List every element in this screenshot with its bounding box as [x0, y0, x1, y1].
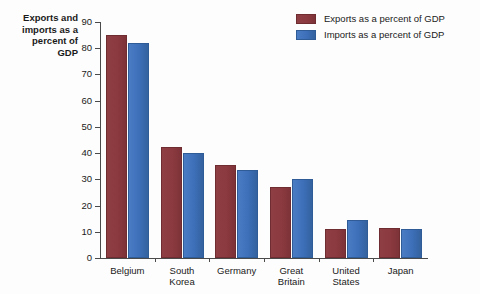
- bar-exports: [161, 147, 182, 258]
- bar-group: [100, 22, 155, 258]
- y-tick-label: 0: [52, 252, 92, 263]
- y-tick-label: 60: [52, 95, 92, 106]
- plot-area: 0102030405060708090 BelgiumSouthKoreaGer…: [100, 22, 428, 258]
- bar-group: [373, 22, 428, 258]
- x-axis-label-line: Japan: [362, 265, 440, 276]
- legend-label: Imports as a percent of GDP: [324, 29, 444, 40]
- bar-imports: [347, 220, 368, 258]
- x-axis-separator: [319, 258, 320, 262]
- chart-legend: Exports as a percent of GDPImports as a …: [296, 13, 476, 45]
- bar-imports: [237, 170, 258, 258]
- x-axis-separator: [373, 258, 374, 262]
- bar-exports: [215, 165, 236, 258]
- legend-swatch-imports: [296, 30, 316, 40]
- y-tick-mark: [95, 258, 100, 259]
- bar-group: [209, 22, 264, 258]
- x-axis-separator: [209, 258, 210, 262]
- bar-group: [264, 22, 319, 258]
- x-axis-label-line: Korea: [143, 276, 221, 287]
- x-axis-label: Japan: [362, 265, 440, 276]
- y-tick-label: 50: [52, 121, 92, 132]
- x-axis-separator: [264, 258, 265, 262]
- bar-exports: [106, 35, 127, 258]
- y-tick-label: 80: [52, 42, 92, 53]
- x-axis-label-line: States: [307, 276, 385, 287]
- bar-exports: [270, 187, 291, 258]
- bar-exports: [379, 228, 400, 258]
- bar-group: [319, 22, 374, 258]
- y-tick-label: 10: [52, 226, 92, 237]
- bar-imports: [128, 43, 149, 258]
- y-tick-label: 30: [52, 173, 92, 184]
- legend-label: Exports as a percent of GDP: [324, 13, 445, 24]
- bar-imports: [292, 179, 313, 258]
- legend-item: Imports as a percent of GDP: [296, 29, 476, 40]
- bar-imports: [183, 153, 204, 258]
- y-tick-label: 20: [52, 200, 92, 211]
- bar-exports: [325, 229, 346, 258]
- y-tick-label: 70: [52, 68, 92, 79]
- legend-swatch-exports: [296, 14, 316, 24]
- y-tick-label: 90: [52, 16, 92, 27]
- bar-group: [155, 22, 210, 258]
- x-axis-separator: [155, 258, 156, 262]
- bar-imports: [401, 229, 422, 258]
- legend-item: Exports as a percent of GDP: [296, 13, 476, 24]
- chart-figure: Exports andimports as apercent ofGDP 010…: [0, 0, 480, 294]
- y-tick-label: 40: [52, 147, 92, 158]
